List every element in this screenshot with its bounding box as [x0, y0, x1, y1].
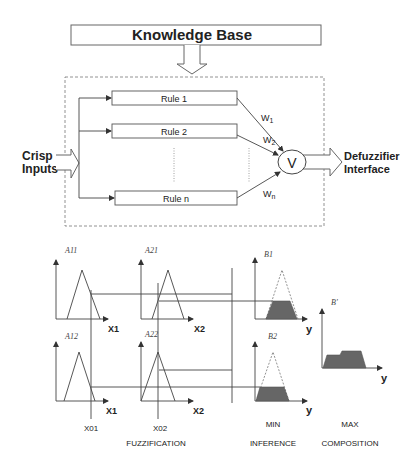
min-label: MIN — [266, 420, 281, 429]
knowledge-base-arrow — [177, 45, 207, 74]
y-axis-label-b2: y — [306, 404, 313, 416]
crisp-inputs-label-1: Crisp — [22, 149, 53, 163]
b1-label: B1 — [264, 250, 273, 259]
rule-1-label: Rule 1 — [161, 94, 187, 104]
defuzzifier-label-2: Interface — [344, 163, 390, 175]
fuzzy-inference-diagram: Knowledge Base Crisp Inputs Rule 1 Rule … — [0, 0, 416, 461]
rule-2: Rule 2 — [112, 124, 237, 138]
crisp-inputs-arrow — [56, 149, 79, 178]
x1-axis-label-bottom: X1 — [106, 406, 117, 416]
a22-label: A22 — [144, 330, 158, 339]
defuzzifier-label-1: Defuzzifier — [344, 150, 400, 162]
rule-n-label: Rule n — [163, 194, 189, 204]
weight-2-label: W2 — [263, 135, 276, 146]
a22-plot — [141, 342, 193, 401]
x1-axis-label-top: X1 — [108, 324, 119, 334]
x01-label: X01 — [84, 424, 99, 433]
weight-n-label: Wn — [263, 189, 276, 200]
x2-axis-label-bottom: X2 — [193, 406, 204, 416]
a12-plot — [56, 342, 108, 401]
max-label: MAX — [341, 420, 359, 429]
knowledge-base-box: Knowledge Base — [71, 25, 321, 45]
b2-label: B2 — [268, 332, 277, 341]
aggregator-symbol: V — [287, 155, 297, 171]
crisp-inputs-label-2: Inputs — [22, 162, 58, 176]
a12-label: A12 — [64, 332, 78, 341]
a21-label: A21 — [144, 246, 158, 255]
a21-plot — [141, 260, 193, 319]
b2-clipped-area — [256, 387, 289, 401]
rule-2-label: Rule 2 — [161, 127, 187, 137]
x2-axis-label-top: X2 — [194, 324, 205, 334]
weight-lines — [237, 98, 283, 198]
knowledge-base-label: Knowledge Base — [132, 26, 252, 43]
y-axis-label-b-prime: y — [381, 372, 388, 384]
a11-plot — [56, 260, 108, 319]
rule-n: Rule n — [115, 191, 237, 205]
y-axis-label-b1: y — [306, 323, 313, 335]
b-prime-label: B' — [331, 298, 338, 307]
inference-label: INFERENCE — [250, 439, 296, 448]
weight-1-label: W1 — [261, 113, 274, 124]
fuzzification-label: FUZZIFICATION — [126, 439, 186, 448]
b-prime-composed-area — [323, 351, 366, 368]
composition-label: COMPOSITION — [322, 439, 379, 448]
input-branches — [79, 98, 114, 198]
a11-label: A11 — [64, 246, 77, 255]
x02-label: X02 — [153, 424, 168, 433]
rule-1: Rule 1 — [112, 91, 237, 105]
